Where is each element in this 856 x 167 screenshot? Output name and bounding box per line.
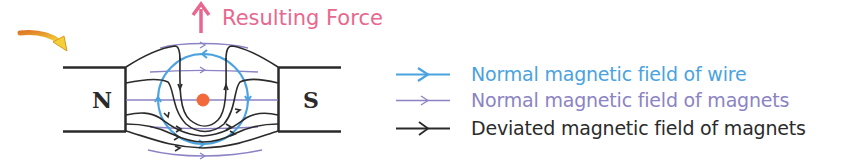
pointer-arrow-icon xyxy=(20,33,67,51)
legend-arrow-magnets-deviated-icon xyxy=(396,122,450,135)
legend-label-wire-field: Normal magnetic field of wire xyxy=(471,63,746,85)
legend-arrow-wire-icon xyxy=(396,68,450,81)
legend-label-magnet-field-deviated: Deviated magnetic field of magnets xyxy=(471,117,806,139)
wire-dot xyxy=(197,94,210,107)
south-pole-label: S xyxy=(303,88,319,112)
force-arrow-icon xyxy=(193,4,209,33)
legend-arrow-magnets-normal-icon xyxy=(396,96,450,105)
north-pole-label: N xyxy=(92,88,112,112)
resulting-force-label: Resulting Force xyxy=(222,6,383,30)
legend-label-magnet-field-normal: Normal magnetic field of magnets xyxy=(471,89,789,111)
